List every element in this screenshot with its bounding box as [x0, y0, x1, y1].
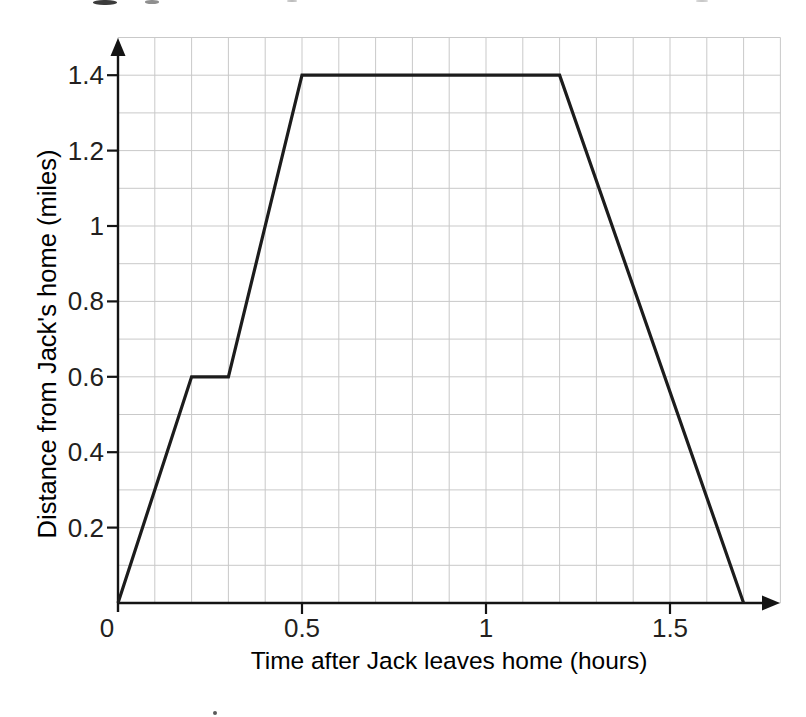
y-tick-label: 0.6	[68, 362, 104, 392]
x-axis-arrow-icon	[762, 596, 780, 611]
x-axis-title: Time after Jack leaves home (hours)	[251, 647, 648, 674]
y-tick-label: 0.4	[68, 437, 104, 467]
x-tick-label: 1.5	[652, 613, 688, 643]
graph-canvas: 00.511.50.20.40.60.811.21.4 Time after J…	[0, 0, 806, 717]
tick-labels: 00.511.50.20.40.60.811.21.4	[68, 60, 688, 643]
distance-time-graph: 00.511.50.20.40.60.811.21.4 Time after J…	[0, 0, 806, 717]
y-axis-title: Distance from Jack's home (miles)	[33, 150, 61, 539]
x-tick-label: 0	[100, 613, 114, 643]
x-tick-label: 1	[479, 613, 493, 643]
y-tick-label: 1.4	[68, 60, 104, 90]
y-axis-arrow-icon	[111, 38, 126, 56]
axes	[111, 38, 781, 612]
y-tick-label: 0.8	[68, 286, 104, 316]
y-tick-label: 1.2	[68, 136, 104, 166]
y-tick-label: 1	[90, 211, 104, 241]
x-tick-label: 0.5	[284, 613, 320, 643]
y-tick-label: 0.2	[68, 513, 104, 543]
grid	[118, 38, 780, 604]
